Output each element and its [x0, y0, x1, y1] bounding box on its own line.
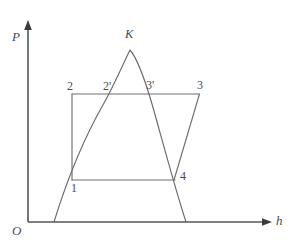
state-label-3: 3	[197, 79, 203, 91]
ph-diagram-canvas	[0, 0, 292, 252]
origin-label: O	[12, 224, 21, 237]
state-label-1: 1	[71, 182, 77, 194]
cycle-line-4-to-3	[174, 94, 200, 180]
y-axis-label: P	[12, 30, 20, 43]
state-label-2: 2	[67, 80, 73, 92]
saturation-dome-curve	[54, 50, 186, 222]
state-label-4: 4	[180, 170, 186, 182]
state-label-2-prime: 2'	[103, 80, 111, 92]
y-axis-arrowhead-icon	[24, 20, 32, 30]
state-label-3-prime: 3'	[146, 79, 154, 91]
x-axis-arrowhead-icon	[262, 218, 272, 226]
ph-diagram-figure: P h O K 2 2' 3' 3 1 4	[0, 0, 292, 252]
critical-point-label: K	[125, 28, 133, 41]
x-axis-label: h	[276, 214, 283, 227]
